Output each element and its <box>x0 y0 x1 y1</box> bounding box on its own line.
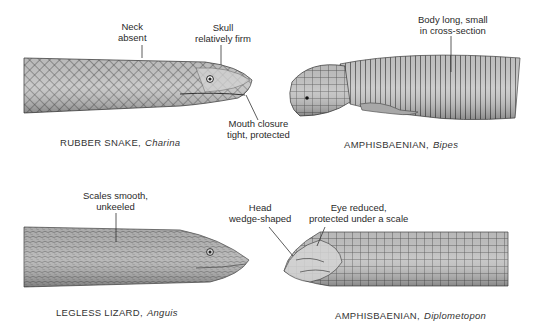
common-name: LEGLESS LIZARD, <box>56 307 143 318</box>
genus-name: Diplometopon <box>424 310 486 321</box>
annotation-neck-absent: Neck absent <box>118 21 147 43</box>
annotation-line: in cross-section <box>418 25 488 36</box>
annotation-mouth-closure: Mouth closure tight, protected <box>227 118 290 140</box>
annotation-body-long: Body long, small in cross-section <box>418 14 488 36</box>
caption-legless-lizard: LEGLESS LIZARD,Anguis <box>56 307 178 318</box>
annotation-line: absent <box>118 32 147 43</box>
annotation-scales-smooth: Scales smooth, unkeeled <box>83 190 148 212</box>
annotation-line: Mouth closure <box>227 118 290 129</box>
annotation-head-wedge: Head wedge-shaped <box>229 202 291 224</box>
genus-name: Charina <box>145 137 180 148</box>
diplometopon-illustration <box>284 232 508 286</box>
caption-bipes: AMPHISBAENIAN,Bipes <box>344 139 458 150</box>
annotation-line: Head <box>229 202 291 213</box>
genus-name: Bipes <box>433 139 458 150</box>
caption-rubber-snake: RUBBER SNAKE,Charina <box>60 137 180 148</box>
annotation-line: relatively firm <box>195 33 251 44</box>
bipes-illustration <box>290 55 520 120</box>
illustration-canvas <box>0 0 535 332</box>
annotation-line: Body long, small <box>418 14 488 25</box>
common-name: RUBBER SNAKE, <box>60 137 141 148</box>
annotation-line: protected under a scale <box>309 213 408 224</box>
annotation-line: Skull <box>195 22 251 33</box>
annotation-line: Scales smooth, <box>83 190 148 201</box>
anguis-illustration <box>24 227 249 287</box>
common-name: AMPHISBAENIAN, <box>344 139 429 150</box>
annotation-skull-firm: Skull relatively firm <box>195 22 251 44</box>
annotation-line: tight, protected <box>227 129 290 140</box>
annotation-eye-reduced: Eye reduced, protected under a scale <box>309 202 408 224</box>
common-name: AMPHISBAENIAN, <box>335 310 420 321</box>
annotation-line: Neck <box>118 21 147 32</box>
annotation-line: Eye reduced, <box>309 202 408 213</box>
rubber-snake-illustration <box>24 58 252 113</box>
genus-name: Anguis <box>147 307 178 318</box>
caption-diplometopon: AMPHISBAENIAN,Diplometopon <box>335 310 486 321</box>
annotation-line: wedge-shaped <box>229 213 291 224</box>
annotation-line: unkeeled <box>83 201 148 212</box>
